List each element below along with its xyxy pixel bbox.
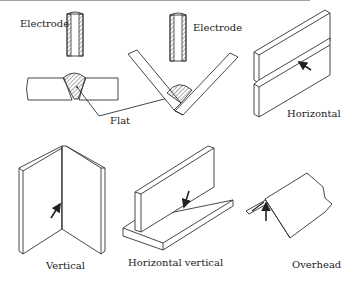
- welding-positions-diagram: Electrode Electrode Flat Horizontal Vert…: [0, 0, 353, 286]
- overhead-label: Overhead: [292, 259, 342, 270]
- vertical-weld-figure: [19, 146, 105, 254]
- electrode-icon: [170, 13, 186, 61]
- electrode-label-left: Electrode: [20, 18, 69, 29]
- horizontal-vertical-label: Horizontal vertical: [128, 257, 223, 268]
- flat-label: Flat: [110, 115, 130, 126]
- overhead-weld-figure: [246, 173, 332, 238]
- electrode-icon: [67, 12, 83, 56]
- horizontal-vertical-weld-figure: [123, 146, 233, 250]
- electrode-label-right: Electrode: [193, 22, 242, 33]
- horizontal-label: Horizontal: [287, 108, 341, 119]
- vertical-label: Vertical: [45, 260, 85, 271]
